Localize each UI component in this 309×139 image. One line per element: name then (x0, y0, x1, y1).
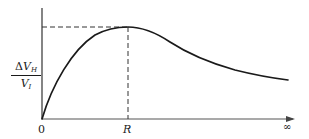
y-axis-label: ΔVH VI (11, 60, 41, 91)
plot-canvas (0, 0, 309, 139)
response-curve (42, 27, 288, 119)
diagram-figure: ΔVH VI 0 R ∞ (0, 0, 309, 139)
x-tick-infinity: ∞ (283, 121, 291, 132)
x-tick-origin: 0 (38, 123, 45, 136)
x-tick-r: R (123, 123, 131, 136)
y-label-numerator: ΔVH (11, 60, 41, 76)
y-label-denominator: VI (11, 76, 41, 91)
